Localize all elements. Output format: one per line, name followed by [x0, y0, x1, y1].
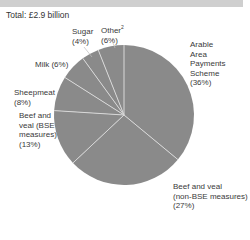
label-sheepmeat: Sheepmeat (8%): [14, 88, 55, 107]
label-other: Other2 (6%): [101, 26, 124, 45]
label-sugar: Sugar (4%): [72, 27, 93, 46]
footnote-marker: 2: [121, 24, 124, 30]
label-arable: Arable Area Payments Scheme (36%): [190, 40, 226, 88]
label-beef-non-bse: Beef and veal (non-BSE measures) (27%): [173, 182, 248, 211]
label-beef-bse: Beef and veal (BSE measures) (13%): [19, 111, 57, 149]
label-milk: Milk (6%): [35, 60, 68, 70]
